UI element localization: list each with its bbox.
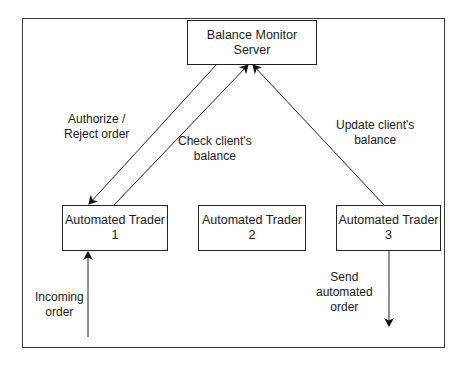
authorize-reject-label: Authorize / Reject order [64,112,129,142]
node-label: Automated Trader [65,213,165,228]
node-label: 3 [385,228,392,243]
automated-trader-2-node: Automated Trader 2 [198,205,306,251]
automated-trader-1-node: Automated Trader 1 [62,205,168,251]
balance-monitor-server-node: Balance Monitor Server [187,20,317,65]
node-label: 1 [112,228,119,243]
node-label: Balance Monitor [207,28,297,43]
node-label: Automated Trader [202,213,302,228]
node-label: Server [234,43,271,58]
update-balance-label: Update client's balance [336,118,414,148]
send-automated-order-label: Send automated order [316,270,373,315]
automated-trader-3-node: Automated Trader 3 [336,205,441,251]
incoming-order-label: Incoming order [35,290,84,320]
check-balance-label: Check client's balance [178,134,252,164]
node-label: 2 [249,228,256,243]
node-label: Automated Trader [338,213,438,228]
